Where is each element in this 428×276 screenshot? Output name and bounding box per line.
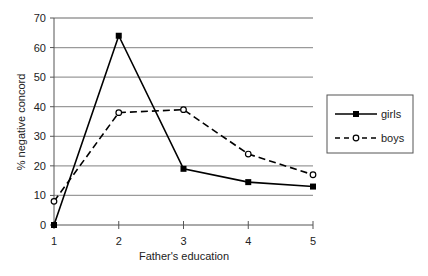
x-tick-label: 5 — [310, 235, 316, 247]
y-axis-title: % negative concord — [15, 74, 27, 171]
boys-marker — [353, 135, 359, 141]
y-tick-label: 30 — [34, 130, 46, 142]
legend-label: boys — [381, 132, 405, 144]
boys-marker — [310, 172, 316, 178]
y-tick-label: 10 — [34, 189, 46, 201]
y-tick-label: 50 — [34, 71, 46, 83]
x-axis-tick-labels: 12345 — [51, 235, 316, 247]
girls-marker — [310, 184, 316, 190]
x-tick-label: 3 — [180, 235, 186, 247]
girls-line — [54, 36, 313, 225]
x-axis-title: Father's education — [139, 250, 229, 262]
data-series — [51, 33, 316, 228]
boys-marker — [181, 107, 187, 113]
y-tick-label: 60 — [34, 42, 46, 54]
girls-marker — [353, 111, 359, 117]
x-tick-label: 4 — [245, 235, 251, 247]
legend-label: girls — [381, 108, 402, 120]
series-boys — [51, 107, 316, 204]
boys-marker — [116, 110, 122, 116]
girls-marker — [245, 179, 251, 185]
y-tick-label: 0 — [40, 219, 46, 231]
legend-box — [327, 95, 413, 153]
axes — [54, 18, 313, 229]
boys-line — [54, 110, 313, 202]
boys-marker — [51, 199, 57, 205]
y-tick-label: 20 — [34, 160, 46, 172]
line-chart: 010203040506070 12345 Father's education… — [0, 0, 428, 276]
y-axis-tick-labels: 010203040506070 — [34, 12, 46, 231]
y-tick-label: 70 — [34, 12, 46, 24]
girls-marker — [116, 33, 122, 39]
girls-marker — [51, 222, 57, 228]
x-tick-label: 1 — [51, 235, 57, 247]
x-tick-label: 2 — [116, 235, 122, 247]
boys-marker — [245, 151, 251, 157]
legend: girlsboys — [327, 95, 413, 153]
girls-marker — [181, 166, 187, 172]
series-girls — [51, 33, 316, 228]
y-tick-label: 40 — [34, 101, 46, 113]
